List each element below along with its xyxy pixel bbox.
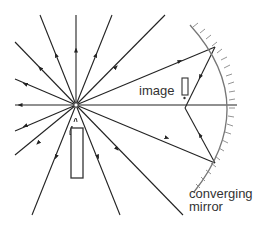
flame-icon	[74, 103, 78, 107]
light-rays	[15, 15, 237, 215]
reflected-image	[182, 78, 188, 99]
mirror-label: converging mirror	[189, 187, 253, 213]
mirror-label-line2: mirror	[189, 200, 253, 213]
image-label: image	[139, 84, 174, 97]
candle	[70, 118, 83, 178]
